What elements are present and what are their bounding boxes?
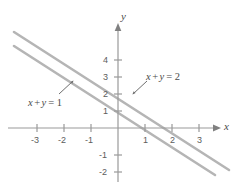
eq1-rest: = 1 [48,97,62,108]
y-axis-label: y [121,11,126,22]
annotation-arrow-line-2 [132,81,147,95]
eq2-x: x [146,71,151,82]
x-axis-label: x [224,121,229,132]
xtick-label-minus-1: -1 [85,136,93,145]
eq2-rest: = 2 [166,71,180,82]
eq1-x: x [28,97,33,108]
equation-label-line-1: x+y= 1 [28,98,62,109]
coordinate-plane-figure: x y -3 -2 -1 1 2 3 4 3 2 1 -1 -2 x+y= 1 … [0,0,235,188]
equation-label-line-2: x+y= 2 [146,72,180,83]
ytick-label-2: 2 [103,90,108,99]
xtick-label-minus-2: -2 [58,136,66,145]
ytick-label-3: 3 [103,73,108,82]
xtick-label-minus-3: -3 [31,136,39,145]
ytick-label-4: 4 [103,56,108,65]
x-axis-arrowhead [213,125,221,132]
xtick-label-1: 1 [143,136,148,145]
xtick-label-3: 3 [197,136,202,145]
eq1-y: y [42,97,47,108]
ytick-label-minus-1: -1 [99,151,107,160]
xtick-label-2: 2 [170,136,175,145]
eq2-y: y [160,71,165,82]
ytick-label-1: 1 [103,107,108,116]
graph-canvas [0,0,235,188]
annotation-arrow-line-1 [59,80,74,94]
y-axis-arrowhead [115,23,122,31]
eq2-plus-sign: + [152,71,158,82]
eq1-plus-sign: + [34,97,40,108]
ytick-label-minus-2: -2 [99,168,107,177]
